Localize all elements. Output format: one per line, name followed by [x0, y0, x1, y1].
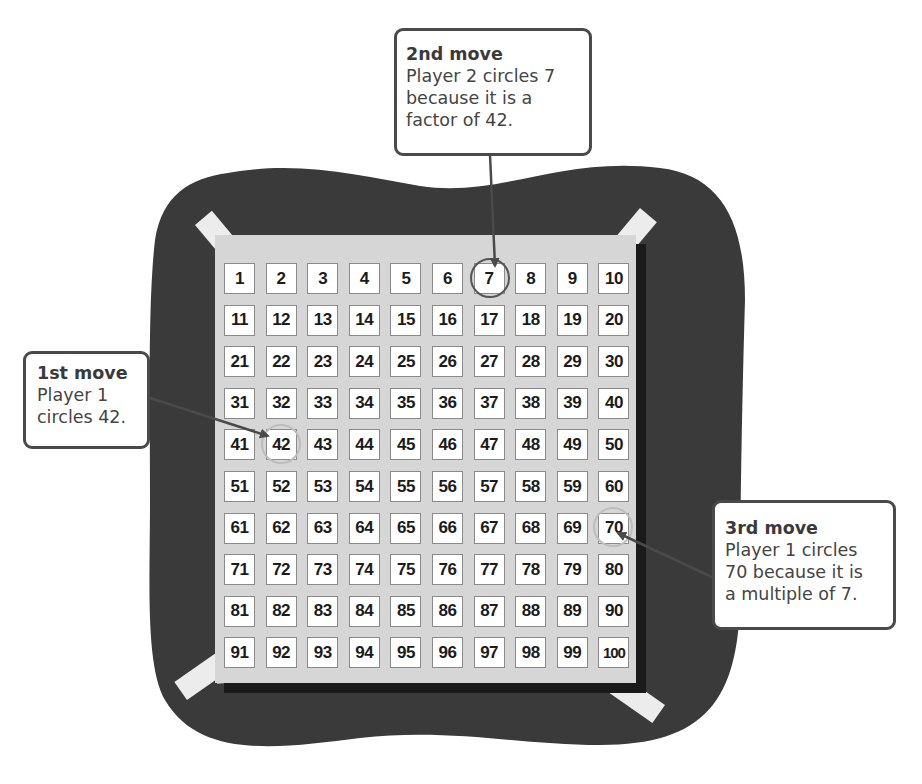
callout-first-move: 1st move Player 1 circles 42. — [23, 351, 150, 449]
grid-cell-17: 17 — [474, 305, 505, 336]
grid-cell-76: 76 — [432, 554, 463, 585]
grid-cell-95: 95 — [390, 637, 421, 668]
grid-cell-78: 78 — [515, 554, 546, 585]
callout-first-line-1: Player 1 — [37, 384, 139, 406]
grid-cell-18: 18 — [515, 305, 546, 336]
grid-cell-80: 80 — [598, 554, 629, 585]
grid-cell-51: 51 — [224, 471, 255, 502]
grid-cell-32: 32 — [266, 388, 297, 419]
grid-cell-38: 38 — [515, 388, 546, 419]
grid-cell-92: 92 — [266, 637, 297, 668]
grid-cell-34: 34 — [349, 388, 380, 419]
grid-cell-79: 79 — [557, 554, 588, 585]
grid-cell-97: 97 — [474, 637, 505, 668]
grid-cell-63: 63 — [307, 513, 338, 544]
grid-cell-83: 83 — [307, 596, 338, 627]
callout-second-title: 2nd move — [406, 43, 581, 65]
grid-cell-10: 10 — [598, 263, 629, 294]
grid-cell-45: 45 — [390, 429, 421, 460]
grid-cell-71: 71 — [224, 554, 255, 585]
grid-cell-90: 90 — [598, 596, 629, 627]
grid-cell-24: 24 — [349, 346, 380, 377]
grid-cell-74: 74 — [349, 554, 380, 585]
grid-cell-61: 61 — [224, 513, 255, 544]
grid-cell-60: 60 — [598, 471, 629, 502]
grid-cell-55: 55 — [390, 471, 421, 502]
grid-cell-20: 20 — [598, 305, 629, 336]
grid-cell-23: 23 — [307, 346, 338, 377]
grid-cell-75: 75 — [390, 554, 421, 585]
grid-cell-57: 57 — [474, 471, 505, 502]
callout-third-line-2: 70 because it is — [725, 561, 885, 583]
grid-cell-53: 53 — [307, 471, 338, 502]
grid-cell-4: 4 — [349, 263, 380, 294]
grid-cell-35: 35 — [390, 388, 421, 419]
grid-cell-98: 98 — [515, 637, 546, 668]
callout-first-title: 1st move — [37, 362, 139, 384]
grid-cell-88: 88 — [515, 596, 546, 627]
grid-cell-62: 62 — [266, 513, 297, 544]
grid-cell-16: 16 — [432, 305, 463, 336]
grid-cell-33: 33 — [307, 388, 338, 419]
grid-cell-6: 6 — [432, 263, 463, 294]
grid-cell-96: 96 — [432, 637, 463, 668]
grid-cell-9: 9 — [557, 263, 588, 294]
grid-cell-40: 40 — [598, 388, 629, 419]
grid-cell-30: 30 — [598, 346, 629, 377]
grid-cell-65: 65 — [390, 513, 421, 544]
grid-cell-11: 11 — [224, 305, 255, 336]
grid-cell-3: 3 — [307, 263, 338, 294]
callout-second-move: 2nd move Player 2 circles 7 because it i… — [394, 28, 592, 156]
grid-cell-29: 29 — [557, 346, 588, 377]
grid-cell-2: 2 — [266, 263, 297, 294]
grid-cell-47: 47 — [474, 429, 505, 460]
callout-second-line-3: factor of 42. — [406, 109, 581, 131]
grid-cell-27: 27 — [474, 346, 505, 377]
grid-cell-56: 56 — [432, 471, 463, 502]
grid-cell-82: 82 — [266, 596, 297, 627]
grid-cell-68: 68 — [515, 513, 546, 544]
grid-cell-44: 44 — [349, 429, 380, 460]
grid-cell-5: 5 — [390, 263, 421, 294]
grid-cell-91: 91 — [224, 637, 255, 668]
grid-cell-85: 85 — [390, 596, 421, 627]
grid-cell-50: 50 — [598, 429, 629, 460]
grid-cell-100: 100 — [598, 637, 629, 668]
callout-third-title: 3rd move — [725, 517, 885, 539]
grid-cell-15: 15 — [390, 305, 421, 336]
grid-cell-26: 26 — [432, 346, 463, 377]
circle-mark-7 — [470, 258, 510, 298]
grid-cell-84: 84 — [349, 596, 380, 627]
callout-second-line-2: because it is a — [406, 87, 581, 109]
grid-cell-54: 54 — [349, 471, 380, 502]
grid-cell-67: 67 — [474, 513, 505, 544]
grid-cell-25: 25 — [390, 346, 421, 377]
grid-cell-19: 19 — [557, 305, 588, 336]
grid-cell-72: 72 — [266, 554, 297, 585]
grid-cell-52: 52 — [266, 471, 297, 502]
callout-third-move: 3rd move Player 1 circles 70 because it … — [712, 500, 896, 630]
grid-cell-28: 28 — [515, 346, 546, 377]
grid-cell-36: 36 — [432, 388, 463, 419]
callout-first-line-2: circles 42. — [37, 406, 139, 428]
grid-cell-12: 12 — [266, 305, 297, 336]
grid-cell-31: 31 — [224, 388, 255, 419]
board-shadow-right — [636, 244, 646, 692]
grid-cell-14: 14 — [349, 305, 380, 336]
circle-mark-70 — [593, 507, 633, 547]
grid-cell-93: 93 — [307, 637, 338, 668]
grid-cell-73: 73 — [307, 554, 338, 585]
grid-cell-37: 37 — [474, 388, 505, 419]
grid-cell-58: 58 — [515, 471, 546, 502]
grid-cell-59: 59 — [557, 471, 588, 502]
hundred-chart-diagram: 1234567891011121314151617181920212223242… — [0, 0, 922, 784]
grid-cell-86: 86 — [432, 596, 463, 627]
grid-cell-77: 77 — [474, 554, 505, 585]
callout-third-line-1: Player 1 circles — [725, 539, 885, 561]
callout-third-line-3: a multiple of 7. — [725, 583, 885, 605]
grid-cell-41: 41 — [224, 429, 255, 460]
circle-mark-42 — [261, 424, 301, 464]
grid-cell-94: 94 — [349, 637, 380, 668]
grid-cell-89: 89 — [557, 596, 588, 627]
grid-cell-66: 66 — [432, 513, 463, 544]
